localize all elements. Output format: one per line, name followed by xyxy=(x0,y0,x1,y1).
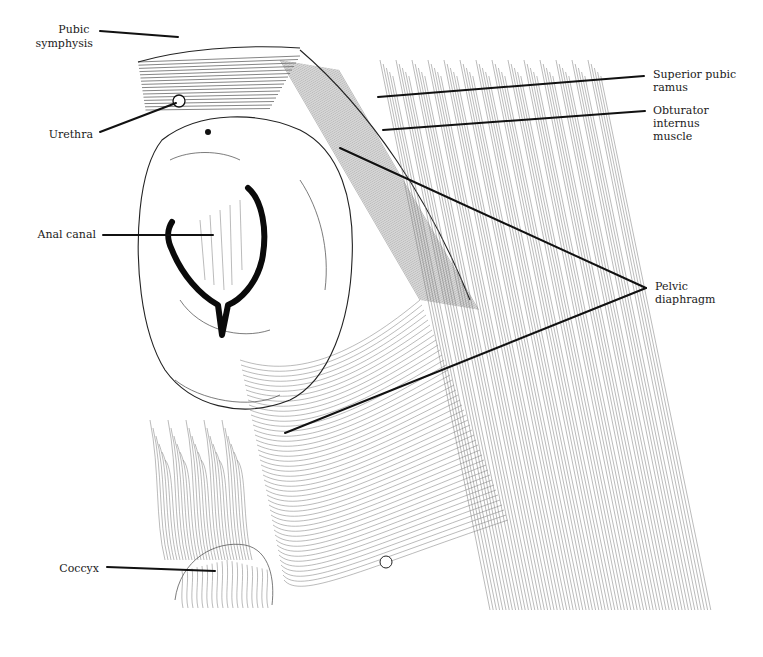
hatch-stroke xyxy=(399,64,509,610)
hatch-stroke xyxy=(585,76,695,610)
leader-pubic-symphysis xyxy=(100,31,178,37)
hatch-stroke xyxy=(138,56,300,62)
urethra-drawing xyxy=(173,95,185,107)
fiber-stroke xyxy=(241,305,422,371)
fiber-stroke xyxy=(213,444,228,560)
fiber-stroke xyxy=(247,565,248,608)
hatch-stroke xyxy=(289,62,429,302)
hatch-stroke xyxy=(406,72,516,610)
label-pubic-symphysis: Pubic symphysis xyxy=(36,23,94,50)
fiber-stroke xyxy=(245,325,430,391)
hatch-stroke xyxy=(286,61,426,301)
hatch-stroke xyxy=(328,68,468,308)
fiber-stroke xyxy=(187,570,188,608)
hatch-stroke xyxy=(601,76,711,610)
fiber-stroke xyxy=(231,444,246,560)
hatch-stroke xyxy=(489,76,599,610)
hatch-stroke xyxy=(304,64,444,304)
anatomy-artwork xyxy=(138,47,711,610)
hatch-stroke xyxy=(415,64,525,610)
fiber-stroke xyxy=(244,320,428,386)
hatch-stroke xyxy=(142,81,287,85)
coccyx-drawing xyxy=(175,544,273,608)
fiber-stroke xyxy=(262,568,263,608)
fiber-stroke xyxy=(249,345,438,411)
label-anal-canal: Anal canal xyxy=(37,228,97,241)
hatch-stroke xyxy=(142,84,284,88)
hatch-stroke xyxy=(315,66,455,306)
fiber-stroke xyxy=(192,568,193,608)
hatch-stroke xyxy=(537,76,647,610)
hatch-stroke xyxy=(444,60,554,610)
fiber-stroke xyxy=(195,444,210,560)
hatch-stroke xyxy=(553,76,663,610)
leader-urethra xyxy=(100,103,176,132)
hatch-stroke xyxy=(139,63,296,68)
fiber-stroke xyxy=(259,395,458,461)
hatch-stroke xyxy=(146,109,271,111)
hatch-stroke xyxy=(141,77,288,81)
hatch-stroke xyxy=(412,60,522,610)
hatch-stroke xyxy=(473,76,583,610)
hatch-stroke xyxy=(143,88,283,91)
hatch-stroke xyxy=(312,65,452,305)
hatch-stroke xyxy=(441,76,551,610)
perineal-region-outline xyxy=(138,117,352,409)
hatch-stroke xyxy=(321,67,461,307)
ischial-spine-drawing xyxy=(380,556,392,568)
fiber-stroke xyxy=(138,47,300,62)
label-urethra: Urethra xyxy=(49,128,94,141)
hatch-stroke xyxy=(139,60,299,66)
leader-lines xyxy=(100,31,646,571)
fiber-stroke xyxy=(269,445,478,511)
fiber-stroke xyxy=(284,520,508,586)
fiber-stroke xyxy=(222,561,223,608)
hatch-stroke xyxy=(144,95,279,98)
fiber-stroke xyxy=(278,490,496,556)
hatch-stroke xyxy=(454,72,564,610)
hatch-stroke xyxy=(418,68,528,610)
fiber-stroke xyxy=(266,430,472,496)
fiber-stroke xyxy=(217,562,218,608)
hatch-stroke xyxy=(428,60,538,610)
fiber-stroke xyxy=(242,564,243,608)
fiber-stroke xyxy=(177,444,192,560)
hatch-stroke xyxy=(569,76,679,610)
fiber-stroke xyxy=(159,444,174,560)
hatch-stroke xyxy=(438,72,548,610)
fiber-stroke xyxy=(267,570,268,608)
hatch-stroke xyxy=(333,69,473,309)
hatch-stroke xyxy=(310,65,450,305)
fiber-stroke xyxy=(242,310,424,376)
fiber-stroke xyxy=(248,340,436,406)
pelvic-floor-illustration: Pubic symphysis Urethra Anal canal Coccy… xyxy=(0,0,763,657)
hatch-stroke xyxy=(330,68,470,308)
hatch-stroke xyxy=(396,60,506,610)
label-pelvic-diaphragm: Pelvic diaphragm xyxy=(655,280,716,306)
fiber-stroke xyxy=(283,515,506,581)
fiber-stroke xyxy=(197,567,198,608)
hatch-stroke xyxy=(145,102,275,104)
fiber-stroke xyxy=(247,335,434,401)
hatch-stroke xyxy=(316,66,456,306)
hatch-stroke xyxy=(447,64,557,610)
fiber-stroke xyxy=(268,440,476,506)
fiber-stroke xyxy=(227,560,228,608)
hatch-stroke xyxy=(505,76,615,610)
fiber-stroke xyxy=(257,567,258,608)
hatch-stroke xyxy=(521,76,631,610)
leader-superior-pubic-ramus xyxy=(378,76,644,97)
hatch-stroke xyxy=(457,76,567,610)
anal-canal-drawing xyxy=(168,188,264,335)
hatch-stroke xyxy=(288,61,428,301)
hatch-stroke xyxy=(313,66,453,306)
fiber-stroke xyxy=(237,562,238,608)
label-coccyx: Coccyx xyxy=(59,562,100,575)
hatch-stroke xyxy=(331,69,471,309)
fiber-stroke xyxy=(258,390,456,456)
label-obturator-internus-muscle: Obturator internus muscle xyxy=(653,104,712,143)
hatch-stroke xyxy=(143,91,280,94)
labels: Pubic symphysis Urethra Anal canal Coccy… xyxy=(36,23,740,575)
fiber-stroke xyxy=(282,510,504,576)
leader-coccyx xyxy=(107,567,215,571)
